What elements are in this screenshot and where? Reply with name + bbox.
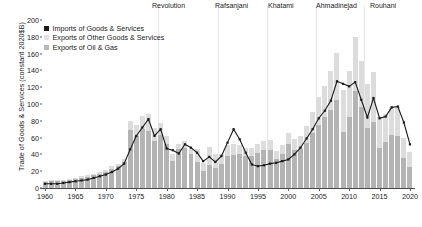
imports-data-marker [56, 183, 58, 185]
imports-data-marker [305, 137, 307, 139]
imports-data-marker [153, 135, 155, 137]
imports-data-marker [397, 105, 399, 107]
x-axis-tick-label: 2020 [402, 192, 418, 201]
imports-data-marker [312, 128, 314, 130]
imports-data-marker [160, 128, 162, 130]
imports-data-marker [220, 155, 222, 157]
imports-data-marker [263, 164, 265, 166]
imports-data-marker [239, 138, 241, 140]
x-axis-tick-mark [45, 188, 46, 191]
y-axis-tick-label: 120 [27, 83, 39, 92]
chart-legend: Imports of Goods & Services Exports of O… [44, 24, 164, 53]
x-axis-tick-mark [288, 188, 289, 191]
legend-swatch-imports [44, 26, 49, 31]
imports-data-marker [172, 149, 174, 151]
imports-data-marker [184, 143, 186, 145]
imports-data-marker [391, 106, 393, 108]
x-axis-tick-label: 2005 [311, 192, 327, 201]
y-axis-tick-label: 140 [27, 66, 39, 75]
x-axis-tick-mark [380, 188, 381, 191]
imports-data-marker [348, 85, 350, 87]
era-label: Rouhani [370, 2, 396, 9]
x-axis-tick-label: 1975 [128, 192, 144, 201]
legend-item-exports-oil: Exports of Oil & Gas [44, 43, 164, 51]
imports-data-marker [135, 135, 137, 137]
x-axis-tick-mark [228, 188, 229, 191]
y-axis-title: Trade of Goods & Services (constant 2020… [17, 2, 26, 192]
imports-data-marker [245, 152, 247, 154]
imports-data-marker [251, 163, 253, 165]
imports-data-marker [190, 147, 192, 149]
imports-data-marker [293, 153, 295, 155]
era-label: Ahmadinejad [316, 2, 357, 9]
imports-data-marker [74, 180, 76, 182]
era-label: Khatami [268, 2, 294, 9]
imports-data-marker [372, 97, 374, 99]
imports-data-marker [330, 100, 332, 102]
x-axis-tick-mark [319, 188, 320, 191]
era-label: Revolution [152, 2, 185, 9]
x-axis-tick-label: 1980 [159, 192, 175, 201]
x-axis-tick-mark [410, 188, 411, 191]
imports-data-marker [123, 163, 125, 165]
imports-data-marker [257, 165, 259, 167]
imports-data-marker [50, 183, 52, 185]
x-axis-tick-label: 1990 [220, 192, 236, 201]
x-axis-tick-mark [167, 188, 168, 191]
imports-data-marker [93, 177, 95, 179]
imports-data-marker [360, 99, 362, 101]
imports-data-marker [80, 179, 82, 181]
legend-label-exports-other: Exports of Other Goods & Services [53, 33, 165, 42]
imports-data-marker [403, 121, 405, 123]
imports-data-marker [324, 110, 326, 112]
legend-item-exports-other: Exports of Other Goods & Services [44, 34, 164, 42]
x-axis-tick-mark [197, 188, 198, 191]
imports-data-marker [117, 168, 119, 170]
imports-data-marker [409, 143, 411, 145]
x-axis-tick-mark [349, 188, 350, 191]
imports-data-marker [166, 147, 168, 149]
imports-data-marker [87, 179, 89, 181]
imports-data-marker [366, 116, 368, 118]
y-axis-tick-label: 80 [31, 116, 39, 125]
imports-data-marker [342, 83, 344, 85]
imports-data-marker [226, 142, 228, 144]
imports-data-marker [336, 80, 338, 82]
x-axis-tick-label: 2010 [341, 192, 357, 201]
imports-data-marker [62, 182, 64, 184]
y-axis-tick-label: 60 [31, 133, 39, 142]
legend-swatch-exports-other [44, 35, 49, 40]
y-axis-tick-label: 200 [27, 16, 39, 25]
imports-data-marker [44, 183, 46, 185]
x-axis-tick-mark [106, 188, 107, 191]
y-axis-tick-label: 180 [27, 32, 39, 41]
y-axis-tick-label: 100 [27, 100, 39, 109]
imports-data-marker [299, 147, 301, 149]
imports-data-marker [385, 116, 387, 118]
imports-data-marker [269, 163, 271, 165]
legend-label-exports-oil: Exports of Oil & Gas [53, 43, 118, 52]
legend-item-imports: Imports of Goods & Services [44, 24, 164, 32]
imports-data-marker [208, 156, 210, 158]
era-label: Rafsanjani [215, 2, 248, 9]
imports-data-marker [275, 162, 277, 164]
imports-data-marker [281, 160, 283, 162]
chart-container: Trade of Goods & Services (constant 2020… [0, 0, 422, 227]
x-axis-tick-label: 1970 [98, 192, 114, 201]
imports-data-marker [318, 117, 320, 119]
imports-data-marker [214, 161, 216, 163]
legend-swatch-exports-oil [44, 45, 49, 50]
x-axis-tick-mark [136, 188, 137, 191]
x-axis-tick-label: 1960 [37, 192, 53, 201]
imports-data-marker [378, 117, 380, 119]
y-axis-tick-label: 40 [31, 150, 39, 159]
imports-data-marker [147, 118, 149, 120]
x-axis-tick-label: 1995 [250, 192, 266, 201]
x-axis-tick-mark [258, 188, 259, 191]
imports-data-marker [178, 152, 180, 154]
x-axis-tick-label: 2015 [372, 192, 388, 201]
x-axis-tick-mark [75, 188, 76, 191]
imports-data-marker [105, 173, 107, 175]
imports-data-marker [99, 175, 101, 177]
imports-data-marker [141, 126, 143, 128]
